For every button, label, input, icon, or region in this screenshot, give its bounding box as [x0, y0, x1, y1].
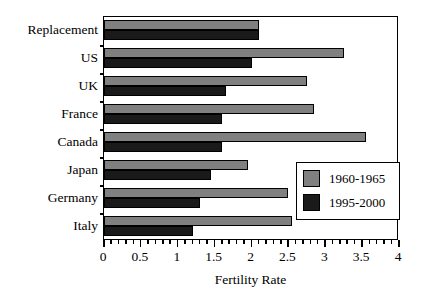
legend-label: 1995-2000 — [329, 194, 385, 211]
x-tick — [162, 240, 164, 244]
category-tick — [100, 101, 104, 103]
x-tick — [361, 240, 363, 247]
category-tick — [100, 129, 104, 131]
x-tick — [302, 240, 304, 244]
x-tick — [383, 240, 385, 244]
fertility-rate-bar-chart: ReplacementUSUKFranceCanadaJapanGermanyI… — [0, 0, 428, 301]
category-tick — [100, 45, 104, 47]
legend-entry-1960-1965: 1960-1965 — [303, 168, 395, 190]
legend-label: 1960-1965 — [329, 170, 385, 187]
category-label-germany: Germany — [0, 191, 98, 205]
bar-replacement-1960-1965 — [104, 20, 259, 30]
category-label-canada: Canada — [0, 135, 98, 149]
x-tick — [133, 240, 135, 244]
x-tick — [273, 240, 275, 244]
bar-italy-1995-2000 — [104, 226, 193, 236]
bar-italy-1960-1965 — [104, 216, 292, 226]
x-tick — [177, 240, 179, 247]
x-tick-label: 2.5 — [279, 249, 296, 264]
x-tick — [206, 240, 208, 244]
bar-france-1995-2000 — [104, 114, 222, 124]
category-label-france: France — [0, 107, 98, 121]
x-tick-label: 2 — [247, 249, 254, 264]
bar-us-1995-2000 — [104, 58, 252, 68]
x-tick — [251, 240, 253, 247]
category-tick — [100, 157, 104, 159]
bar-japan-1960-1965 — [104, 160, 248, 170]
x-tick — [228, 240, 230, 244]
category-tick — [100, 213, 104, 215]
x-tick — [258, 240, 260, 244]
x-tick — [310, 240, 312, 244]
legend-entry-1995-2000: 1995-2000 — [303, 192, 395, 214]
x-tick — [339, 240, 341, 244]
x-tick — [332, 240, 334, 244]
x-tick-label: 0.5 — [131, 249, 148, 264]
bar-uk-1960-1965 — [104, 76, 307, 86]
category-tick — [100, 73, 104, 75]
x-tick — [369, 240, 371, 244]
bar-france-1960-1965 — [104, 104, 314, 114]
category-label-uk: UK — [0, 79, 98, 93]
bar-japan-1995-2000 — [104, 170, 211, 180]
x-tick — [199, 240, 201, 244]
bar-germany-1995-2000 — [104, 198, 200, 208]
x-tick — [110, 240, 112, 244]
x-tick — [118, 240, 120, 244]
x-tick — [184, 240, 186, 244]
x-tick-label: 0 — [100, 249, 107, 264]
bar-canada-1995-2000 — [104, 142, 222, 152]
x-axis-title: Fertility Rate — [103, 272, 398, 288]
x-tick — [169, 240, 171, 244]
x-tick-label: 4 — [395, 249, 402, 264]
bar-canada-1960-1965 — [104, 132, 366, 142]
x-tick — [125, 240, 127, 244]
x-tick — [147, 240, 149, 244]
x-tick — [192, 240, 194, 244]
x-tick — [103, 240, 105, 247]
x-tick — [376, 240, 378, 244]
legend-swatch-gray — [303, 170, 320, 187]
bar-us-1960-1965 — [104, 48, 344, 58]
category-label-us: US — [0, 51, 98, 65]
category-label-italy: Italy — [0, 219, 98, 233]
x-tick-label: 3.5 — [353, 249, 370, 264]
chart-legend: 1960-19651995-2000 — [296, 162, 400, 220]
x-tick — [214, 240, 216, 247]
x-tick — [398, 240, 400, 247]
x-tick — [221, 240, 223, 244]
x-tick — [317, 240, 319, 244]
x-tick — [155, 240, 157, 244]
x-tick — [280, 240, 282, 244]
bar-uk-1995-2000 — [104, 86, 226, 96]
category-label-replacement: Replacement — [0, 23, 98, 37]
category-axis-labels: ReplacementUSUKFranceCanadaJapanGermanyI… — [0, 16, 98, 240]
x-axis-tick-labels: 00.511.522.533.54 — [103, 249, 398, 267]
x-tick — [243, 240, 245, 244]
bar-germany-1960-1965 — [104, 188, 288, 198]
x-tick — [354, 240, 356, 244]
x-tick-label: 1 — [173, 249, 180, 264]
bar-replacement-1995-2000 — [104, 30, 259, 40]
x-tick — [346, 240, 348, 244]
x-tick — [140, 240, 142, 247]
x-tick — [295, 240, 297, 244]
x-tick — [391, 240, 393, 244]
x-tick — [236, 240, 238, 244]
x-tick — [265, 240, 267, 244]
x-tick-label: 1.5 — [205, 249, 222, 264]
x-tick-label: 3 — [321, 249, 328, 264]
legend-swatch-black — [303, 194, 320, 211]
category-tick — [100, 185, 104, 187]
x-tick — [287, 240, 289, 247]
x-tick — [324, 240, 326, 247]
category-label-japan: Japan — [0, 163, 98, 177]
